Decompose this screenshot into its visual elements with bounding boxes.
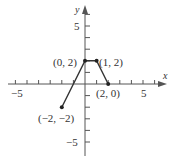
y-tick-label-5: 5 [74,20,80,32]
point-label-0-2: (0, 2) [53,56,77,69]
point-label-1-2: (1, 2) [99,56,123,69]
y-axis [85,10,90,156]
point-neg2-neg2 [60,105,64,109]
point-0-2 [83,59,87,63]
point-2-0 [106,82,110,86]
x-axis-label: x [162,70,168,81]
x-tick-label-5: 5 [141,87,147,99]
y-axis-arrow-icon [82,5,88,14]
coordinate-plane: x y −5 5 5 −5 (0, 2) (1, 2) (2, 0) (−2, … [0,0,171,162]
x-tick-label-neg5: −5 [11,87,23,99]
point-label-neg2-neg2: (−2, −2) [38,112,75,125]
point-label-2-0: (2, 0) [96,87,120,100]
y-tick-label-neg5: −5 [66,136,78,148]
y-axis-label: y [74,4,80,15]
x-axis-arrow-icon [158,81,167,87]
point-1-2 [95,59,99,63]
